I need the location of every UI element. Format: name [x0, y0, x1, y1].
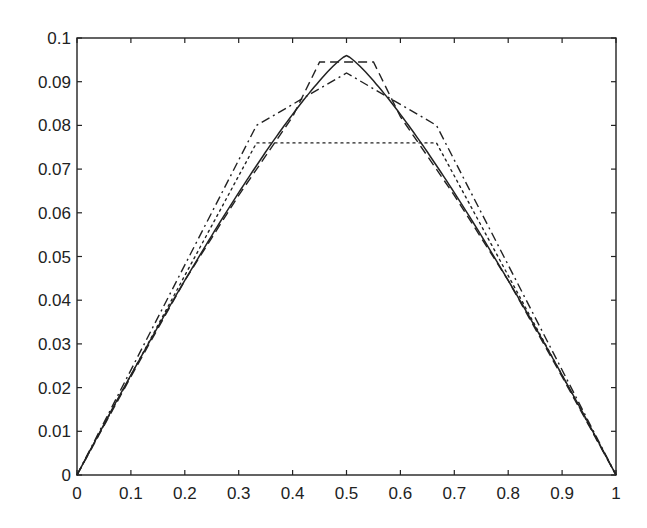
x-tick-label: 0.1: [119, 484, 143, 503]
x-tick-label: 0.2: [173, 484, 197, 503]
y-tick-label: 0.07: [38, 160, 71, 179]
x-tick-label: 1: [611, 484, 620, 503]
y-tick-label: 0.06: [38, 204, 71, 223]
y-tick-label: 0.05: [38, 248, 71, 267]
y-tick-label: 0.02: [38, 379, 71, 398]
y-tick-label: 0.08: [38, 116, 71, 135]
y-tick-label: 0.03: [38, 335, 71, 354]
x-tick-label: 0.9: [550, 484, 574, 503]
axes-box: [77, 38, 616, 475]
y-tick-label: 0: [62, 466, 71, 485]
x-tick-label: 0.8: [496, 484, 520, 503]
x-tick-label: 0.3: [227, 484, 251, 503]
y-tick-label: 0.04: [38, 291, 71, 310]
series-lines: [77, 56, 616, 476]
series-dashed: [77, 62, 616, 475]
x-tick-label: 0: [72, 484, 81, 503]
line-chart: 00.010.020.030.040.050.060.070.080.090.1…: [0, 0, 647, 528]
y-tick-label: 0.1: [47, 29, 71, 48]
series-solid: [77, 56, 616, 476]
plot-frame: [77, 38, 616, 475]
series-dash-dot: [77, 73, 616, 475]
x-tick-label: 0.7: [442, 484, 466, 503]
y-tick-label: 0.01: [38, 422, 71, 441]
y-axis: 00.010.020.030.040.050.060.070.080.090.1: [38, 29, 616, 485]
x-axis: 00.10.20.30.40.50.60.70.80.91: [72, 38, 620, 503]
x-tick-label: 0.5: [335, 484, 359, 503]
series-dotted: [77, 143, 616, 475]
y-tick-label: 0.09: [38, 73, 71, 92]
x-tick-label: 0.6: [389, 484, 413, 503]
x-tick-label: 0.4: [281, 484, 305, 503]
